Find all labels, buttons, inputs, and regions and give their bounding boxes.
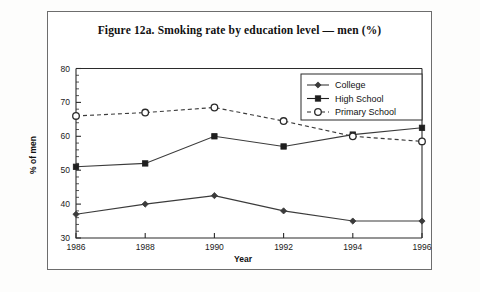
y-tick-label: 40 [61, 199, 71, 209]
y-axis-tick-labels: 304050607080 [61, 64, 71, 244]
x-tick-label: 1992 [274, 242, 293, 252]
data-point-marker [315, 109, 322, 116]
series-high-school [73, 125, 424, 169]
data-point-marker [211, 104, 218, 111]
data-point-marker [419, 138, 426, 145]
y-tick-label: 60 [61, 131, 71, 141]
data-point-marker [419, 125, 424, 130]
chart-legend[interactable]: CollegeHigh SchoolPrimary School [301, 74, 422, 120]
line-chart: 304050607080 198619881990199219941996 Co… [0, 0, 480, 292]
chart-series [73, 104, 426, 224]
x-axis-title: Year [234, 254, 253, 264]
series-line [76, 128, 422, 167]
y-tick-label: 80 [61, 64, 71, 74]
legend-label: College [335, 80, 366, 90]
data-point-marker [143, 161, 148, 166]
legend-label: High School [335, 94, 384, 104]
x-tick-label: 1986 [67, 242, 86, 252]
data-point-marker [73, 211, 79, 217]
data-point-marker [211, 193, 217, 199]
data-point-marker [142, 109, 149, 116]
data-point-marker [419, 218, 425, 224]
data-point-marker [212, 134, 217, 139]
figure-root: Figure 12a. Smoking rate by education le… [0, 0, 480, 292]
x-axis-tick-labels: 198619881990199219941996 [67, 242, 432, 252]
data-point-marker [350, 133, 357, 140]
x-tick-label: 1994 [343, 242, 362, 252]
data-point-marker [350, 218, 356, 224]
x-tick-label: 1996 [413, 242, 432, 252]
x-tick-label: 1990 [205, 242, 224, 252]
x-axis-ticks [76, 233, 422, 238]
x-tick-label: 1988 [136, 242, 155, 252]
data-point-marker [142, 201, 148, 207]
series-college [73, 193, 425, 225]
series-line [76, 196, 422, 221]
data-point-marker [281, 208, 287, 214]
chart-container: 304050607080 198619881990199219941996 Co… [0, 0, 480, 292]
y-tick-label: 70 [61, 97, 71, 107]
data-point-marker [281, 144, 286, 149]
data-point-marker [73, 164, 78, 169]
data-point-marker [315, 96, 320, 101]
data-point-marker [280, 118, 287, 125]
legend-label: Primary School [335, 107, 396, 117]
y-axis-title: % of men [28, 136, 38, 174]
data-point-marker [73, 113, 80, 120]
y-tick-label: 50 [61, 165, 71, 175]
